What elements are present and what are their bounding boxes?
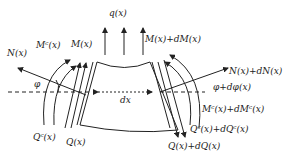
label-Q-left: Q(x) bbox=[66, 137, 85, 147]
label-moment-right: M(x)+dM(x) bbox=[145, 34, 201, 44]
beam-element-body bbox=[97, 62, 150, 68]
label-normal-force-right: N(x)+dN(x) bbox=[229, 66, 282, 76]
label-distributed-load: q(x) bbox=[109, 8, 127, 18]
label-phi-left: φ bbox=[34, 79, 40, 89]
label-dx: dx bbox=[120, 95, 131, 105]
label-normal-force-left: N(x) bbox=[7, 48, 27, 58]
label-Q-right: Q(x)+dQ(x) bbox=[168, 141, 220, 151]
label-Mc-left: Mᶜ(x) bbox=[36, 40, 61, 50]
beam-element-diagram: q(x) N(x) Mᶜ(x) M(x) M(x)+dM(x) N(x)+dN(… bbox=[0, 0, 290, 157]
label-Qc-right: Qᶜ(x)+dQᶜ(x) bbox=[190, 124, 249, 134]
moment-arc-right-inner bbox=[165, 62, 191, 125]
label-Qc-left: Qᶜ(x) bbox=[33, 132, 56, 142]
label-phi-right: φ+dφ(x) bbox=[213, 82, 251, 92]
label-moment-left: M(x) bbox=[71, 39, 92, 49]
label-Mc-right: Mᶜ(x)+dMᶜ(x) bbox=[202, 104, 264, 114]
